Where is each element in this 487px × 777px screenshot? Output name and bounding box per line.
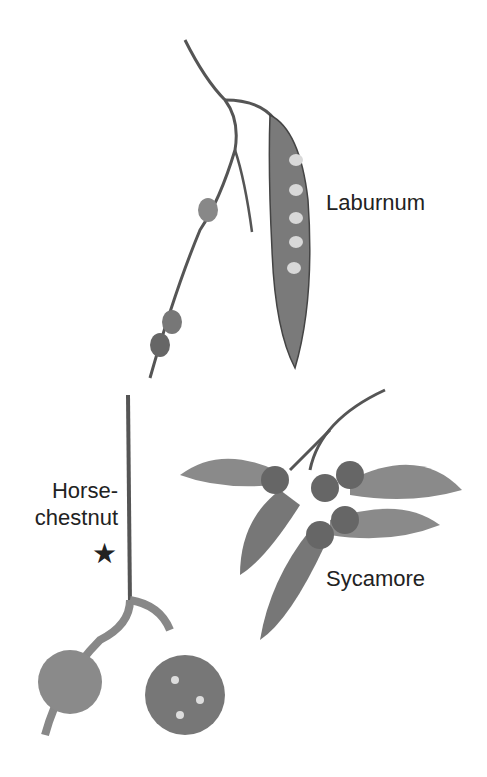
horse-chestnut-label-line1: Horse- [32,478,118,504]
sycamore-illustration [180,390,462,640]
laburnum-label: Laburnum [326,190,425,216]
laburnum-illustration [150,40,310,378]
horse-chestnut-label-line2: chestnut [24,505,118,531]
horse-chestnut-illustration [38,395,225,735]
sycamore-label: Sycamore [326,566,425,592]
botanical-illustration [0,0,487,777]
star-icon: ★ [92,541,117,567]
